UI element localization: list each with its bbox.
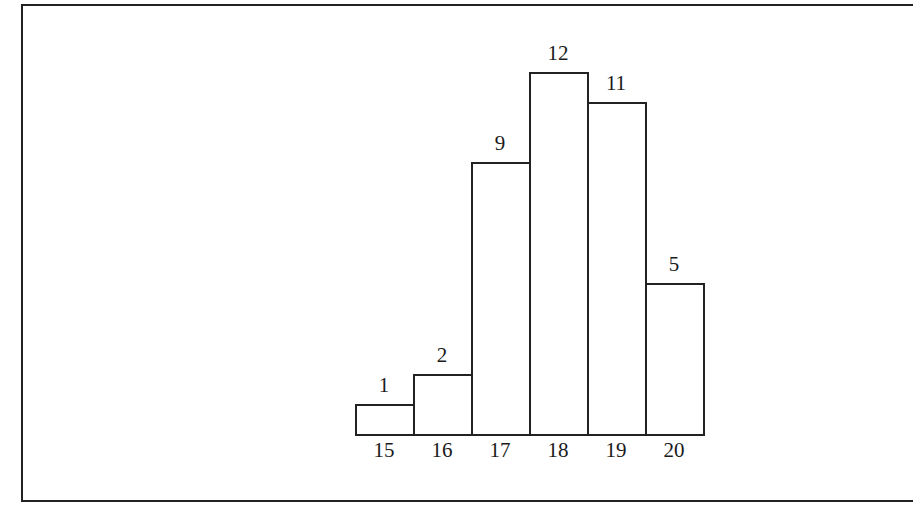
bar-value-label: 1 (355, 374, 413, 396)
bar-value-label: 12 (529, 42, 587, 64)
bar-19 (587, 102, 647, 436)
bar-18 (529, 72, 589, 436)
x-tick-label: 20 (645, 439, 703, 461)
bar-value-label: 9 (471, 132, 529, 154)
bar-value-label: 2 (413, 344, 471, 366)
x-tick-label: 18 (529, 439, 587, 461)
x-tick-label: 19 (587, 439, 645, 461)
bar-value-label: 5 (645, 253, 703, 275)
bar-value-label: 11 (587, 72, 645, 94)
bar-17 (471, 162, 531, 436)
x-tick-label: 15 (355, 439, 413, 461)
bar-20 (645, 283, 705, 436)
x-tick-label: 17 (471, 439, 529, 461)
x-tick-label: 16 (413, 439, 471, 461)
bar-16 (413, 374, 473, 436)
bar-15 (355, 404, 415, 436)
